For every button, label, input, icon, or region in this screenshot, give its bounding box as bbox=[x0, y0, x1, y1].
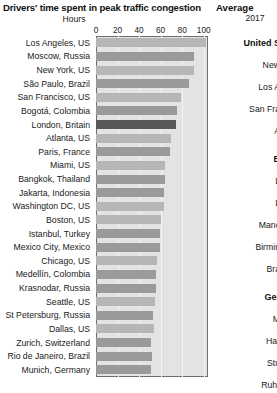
right-city-label: Los A bbox=[216, 82, 277, 92]
right-panel-title: Average bbox=[216, 2, 277, 13]
bar-san-francisco-us bbox=[96, 93, 181, 102]
category-label: Moscow, Russia bbox=[0, 50, 93, 64]
category-label: Dallas, US bbox=[0, 322, 93, 336]
x-axis-ticks: 020406080100 bbox=[96, 25, 208, 36]
category-label: Bangkok, Thailand bbox=[0, 172, 93, 186]
right-city-label: A bbox=[216, 126, 277, 136]
bar-row bbox=[96, 268, 208, 282]
category-label: Munich, Germany bbox=[0, 363, 93, 377]
bar-s-o-paulo-brazil bbox=[96, 79, 189, 88]
bar-bogot-colombia bbox=[96, 106, 177, 115]
figure-root: Drivers' time spent in peak traffic cong… bbox=[0, 0, 277, 393]
bar-rio-de-janeiro-brazil bbox=[96, 352, 152, 361]
category-label: Los Angeles, US bbox=[0, 36, 93, 50]
category-label: Rio de Janeiro, Brazil bbox=[0, 349, 93, 363]
bar-miami-us bbox=[96, 161, 165, 170]
x-tick-label-20: 20 bbox=[113, 25, 122, 35]
bar-row bbox=[96, 131, 208, 145]
bar-medell-n-colombia bbox=[96, 270, 156, 279]
right-group-label: B bbox=[216, 154, 277, 164]
bar-row bbox=[96, 172, 208, 186]
page-title: Drivers' time spent in peak traffic cong… bbox=[3, 2, 211, 13]
bar-new-york-us bbox=[96, 66, 194, 75]
right-city-label: Stu bbox=[216, 358, 277, 368]
bar-paris-france bbox=[96, 147, 170, 156]
bar-row bbox=[96, 63, 208, 77]
bar-row bbox=[96, 36, 208, 50]
bar-row bbox=[96, 281, 208, 295]
bar-row bbox=[96, 145, 208, 159]
category-label: Boston, US bbox=[0, 213, 93, 227]
right-city-label: Bra bbox=[216, 264, 277, 274]
right-city-label: Birmin bbox=[216, 242, 277, 252]
bar-row bbox=[96, 309, 208, 323]
bar-row bbox=[96, 349, 208, 363]
bar-rows bbox=[96, 36, 208, 377]
bar-mexico-city-mexico bbox=[96, 243, 160, 252]
bar-dallas-us bbox=[96, 324, 154, 333]
right-city-label: Manc bbox=[216, 220, 277, 230]
bar-row bbox=[96, 77, 208, 91]
category-label: Zurich, Switzerland bbox=[0, 336, 93, 350]
right-group-label: United S bbox=[216, 38, 277, 48]
right-city-label: L bbox=[216, 198, 277, 208]
bar-row bbox=[96, 91, 208, 105]
bar-seattle-us bbox=[96, 297, 155, 306]
x-tick-label-60: 60 bbox=[156, 25, 165, 35]
category-label: St Petersburg, Russia bbox=[0, 309, 93, 323]
bar-row bbox=[96, 118, 208, 132]
bar-row bbox=[96, 254, 208, 268]
category-label: Seattle, US bbox=[0, 295, 93, 309]
bar-krasnodar-russia bbox=[96, 284, 156, 293]
category-label: London, Britain bbox=[0, 118, 93, 132]
bar-row bbox=[96, 186, 208, 200]
right-city-label: San Fra bbox=[216, 104, 277, 114]
x-tick-label-0: 0 bbox=[94, 25, 99, 35]
bar-row bbox=[96, 322, 208, 336]
x-tick-label-100: 100 bbox=[197, 25, 211, 35]
bar-row bbox=[96, 200, 208, 214]
right-chart-panel: Average 2017 United SNewLos ASan FraABLL… bbox=[216, 0, 277, 393]
x-tick-label-40: 40 bbox=[134, 25, 143, 35]
right-city-label: Ruhr bbox=[216, 380, 277, 390]
bar-row bbox=[96, 227, 208, 241]
bar-munich-germany bbox=[96, 365, 151, 374]
category-label: Paris, France bbox=[0, 145, 93, 159]
bar-jakarta-indonesia bbox=[96, 188, 164, 197]
bar-bangkok-thailand bbox=[96, 175, 165, 184]
category-label: Atlanta, US bbox=[0, 131, 93, 145]
bar-row bbox=[96, 240, 208, 254]
bar-row bbox=[96, 159, 208, 173]
category-label: Washington DC, US bbox=[0, 200, 93, 214]
category-label-column: Los Angeles, USMoscow, RussiaNew York, U… bbox=[0, 36, 93, 377]
bar-istanbul-turkey bbox=[96, 229, 160, 238]
right-city-label: M bbox=[216, 314, 277, 324]
category-label: Miami, US bbox=[0, 159, 93, 173]
bar-los-angeles-us bbox=[96, 38, 206, 47]
bar-row bbox=[96, 213, 208, 227]
category-label: Medellín, Colombia bbox=[0, 268, 93, 282]
right-city-label: L bbox=[216, 176, 277, 186]
category-label: São Paulo, Brazil bbox=[0, 77, 93, 91]
bar-st-petersburg-russia bbox=[96, 311, 153, 320]
bar-row bbox=[96, 295, 208, 309]
right-group-label: Ger bbox=[216, 292, 277, 302]
plot-area bbox=[96, 36, 208, 377]
bar-row bbox=[96, 363, 208, 377]
bar-zurich-switzerland bbox=[96, 338, 151, 347]
category-label: Bogotá, Colombia bbox=[0, 104, 93, 118]
bar-row bbox=[96, 50, 208, 64]
bar-moscow-russia bbox=[96, 52, 194, 61]
right-city-label: Har bbox=[216, 336, 277, 346]
bar-row bbox=[96, 336, 208, 350]
category-label: Mexico City, Mexico bbox=[0, 240, 93, 254]
right-panel-subtitle: 2017 bbox=[216, 13, 277, 23]
bar-row bbox=[96, 104, 208, 118]
x-tick-label-80: 80 bbox=[178, 25, 187, 35]
axis-unit-label: Hours bbox=[0, 14, 148, 24]
bar-boston-us bbox=[96, 215, 161, 224]
bar-chicago-us bbox=[96, 256, 157, 265]
category-label: San Francisco, US bbox=[0, 91, 93, 105]
right-city-label: New bbox=[216, 60, 277, 70]
left-chart-panel: Drivers' time spent in peak traffic cong… bbox=[0, 0, 212, 393]
